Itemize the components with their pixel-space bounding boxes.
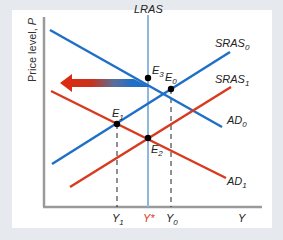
x-axis-label: Y [238,212,246,224]
label-e1: E1 [112,107,124,122]
lras-label: LRAS [134,3,163,15]
y-axis-label: Price level, P [26,17,38,82]
ad-as-diagram: Price level, P LRAS E3 E0 E1 E2 SRAS0 SR… [0,0,283,240]
tick-y0: Y0 [166,212,178,227]
sras0-curve [52,52,230,164]
label-e0: E0 [165,71,177,86]
label-sras0: SRAS0 [215,37,250,52]
tick-y1: Y1 [112,212,124,227]
ad1-curve [51,91,226,178]
label-ad1: AD1 [226,175,247,190]
point-e2 [145,135,151,141]
point-e0 [168,86,174,92]
label-e3: E3 [152,64,164,79]
leftward-shift-arrow-icon [60,74,150,92]
tick-ystar: Y* [143,212,155,224]
point-e3 [145,75,151,81]
label-sras1: SRAS1 [215,73,249,88]
label-ad0: AD0 [226,114,247,129]
